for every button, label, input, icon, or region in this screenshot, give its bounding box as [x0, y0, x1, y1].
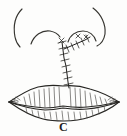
nasal-sill-suture: [64, 34, 90, 52]
left-nostril-sill-arc: [31, 31, 60, 44]
right-alar-arc: [93, 8, 105, 46]
upper-lip: [9, 85, 119, 108]
right-commissure: [108, 97, 119, 103]
philtral-suture: [58, 38, 73, 88]
left-alar-arc: [14, 9, 22, 47]
figure-panel: C: [0, 0, 127, 136]
line-drawing-illustration: [0, 0, 127, 136]
left-commissure-hatching: [13, 97, 20, 103]
panel-caption-label: C: [0, 121, 127, 133]
